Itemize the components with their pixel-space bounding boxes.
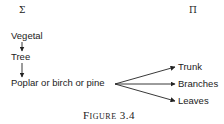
figure-caption: Figure 3.4	[83, 110, 135, 121]
arrows-layer	[0, 0, 224, 124]
arrow-to-leaves	[115, 84, 175, 101]
arrow-to-trunk	[115, 67, 175, 84]
